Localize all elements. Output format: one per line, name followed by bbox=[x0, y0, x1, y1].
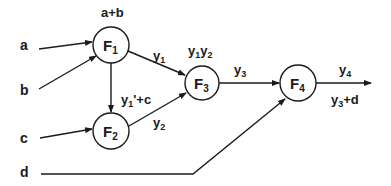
edge-label-y3: y3 bbox=[234, 62, 246, 79]
dataflow-diagram: a b c d F1 F2 F3 F4 a+b y1'+c y1y2 y3+d … bbox=[0, 0, 391, 186]
node-f4: F4 bbox=[280, 65, 316, 101]
f1-annotation: a+b bbox=[101, 5, 124, 20]
f2-annotation: y1'+c bbox=[121, 92, 151, 109]
f3-annotation: y1y2 bbox=[188, 43, 213, 60]
input-c-label: c bbox=[20, 130, 28, 146]
input-a-label: a bbox=[20, 37, 28, 53]
edge-label-y1: y1 bbox=[153, 48, 165, 65]
edge-b-f1 bbox=[39, 56, 96, 89]
input-b-label: b bbox=[20, 82, 29, 98]
node-f3: F3 bbox=[185, 66, 219, 100]
f4-annotation: y3+d bbox=[331, 92, 359, 109]
edge-a-f1 bbox=[39, 42, 92, 49]
edge-d-f4 bbox=[41, 99, 285, 174]
edge-label-y4: y4 bbox=[339, 62, 351, 79]
node-f1: F1 bbox=[93, 27, 129, 63]
node-f2: F2 bbox=[93, 113, 129, 149]
input-d-label: d bbox=[20, 164, 29, 180]
edge-label-y2: y2 bbox=[153, 115, 165, 132]
edge-c-f2 bbox=[40, 129, 92, 138]
